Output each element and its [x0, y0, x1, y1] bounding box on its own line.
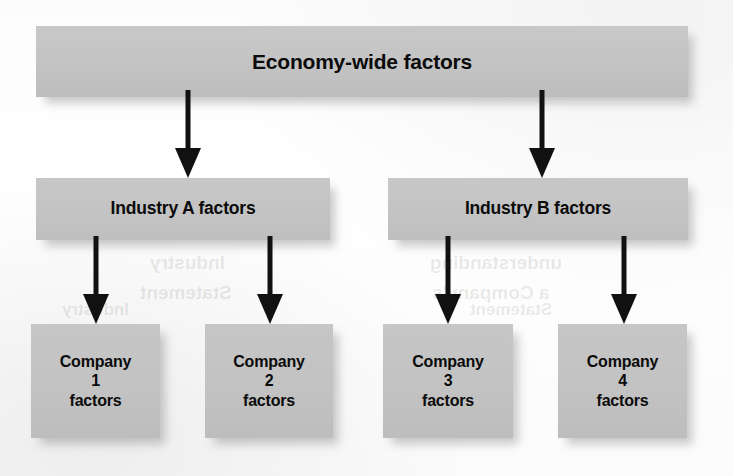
- node-company-3-factors[interactable]: Company 3 factors: [383, 324, 513, 438]
- bleed-through-text: Statement: [140, 282, 232, 304]
- bleed-through-text: a Company's: [432, 282, 550, 304]
- bleed-through-text: Statement: [470, 300, 552, 320]
- diagram-canvas: Industry Statement understanding a Compa…: [0, 0, 733, 476]
- node-label: Company 4 factors: [587, 352, 659, 411]
- node-company-4-factors[interactable]: Company 4 factors: [558, 324, 687, 438]
- connector-industry-b-to-company-4-arrow: [611, 236, 637, 324]
- connector-industry-a-to-company-2-arrow: [257, 236, 283, 324]
- bleed-through-text: Industry: [150, 252, 225, 274]
- bleed-through-text: understanding: [430, 252, 562, 274]
- connector-economy-to-industry-b-arrow: [529, 90, 555, 178]
- connector-economy-to-industry-a-arrow: [175, 90, 201, 178]
- node-company-1-factors[interactable]: Company 1 factors: [31, 324, 160, 438]
- node-company-2-factors[interactable]: Company 2 factors: [205, 324, 333, 438]
- connector-industry-a-to-company-1-arrow: [83, 236, 109, 324]
- node-label: Industry B factors: [465, 198, 611, 219]
- node-industry-a-factors[interactable]: Industry A factors: [36, 178, 330, 240]
- node-industry-b-factors[interactable]: Industry B factors: [388, 178, 688, 240]
- bleed-through-text: Industry: [62, 300, 129, 320]
- node-label: Economy-wide factors: [252, 49, 472, 75]
- connector-industry-b-to-company-3-arrow: [435, 236, 461, 324]
- node-label: Company 3 factors: [412, 352, 484, 411]
- node-label: Industry A factors: [111, 198, 256, 219]
- node-label: Company 1 factors: [60, 352, 132, 411]
- node-label: Company 2 factors: [233, 352, 305, 411]
- node-economy-wide-factors[interactable]: Economy-wide factors: [36, 26, 688, 97]
